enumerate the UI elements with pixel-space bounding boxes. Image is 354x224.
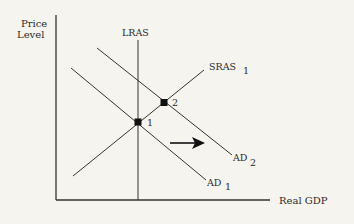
y-axis-label-line2: Level [17, 29, 44, 40]
point-1-label: 1 [147, 117, 153, 128]
ad1-subscript: 1 [225, 181, 231, 192]
equilibrium-point-2 [161, 99, 168, 106]
shift-right-arrow-icon [170, 137, 205, 149]
lras-label: LRAS [122, 27, 149, 38]
sras1-subscript: 1 [243, 65, 249, 76]
ad1-label: AD [206, 177, 222, 188]
ad2-label: AD [232, 152, 248, 163]
y-axis-label-line1: Price [21, 18, 47, 29]
ad-as-diagram: Price Level Real GDP LRAS SRAS 1 AD 2 AD… [0, 0, 354, 224]
equilibrium-point-1 [135, 119, 142, 126]
ad2-subscript: 2 [250, 157, 256, 168]
x-axis-label: Real GDP [279, 195, 328, 206]
sras1-label: SRAS [209, 61, 236, 72]
point-2-label: 2 [172, 97, 178, 108]
